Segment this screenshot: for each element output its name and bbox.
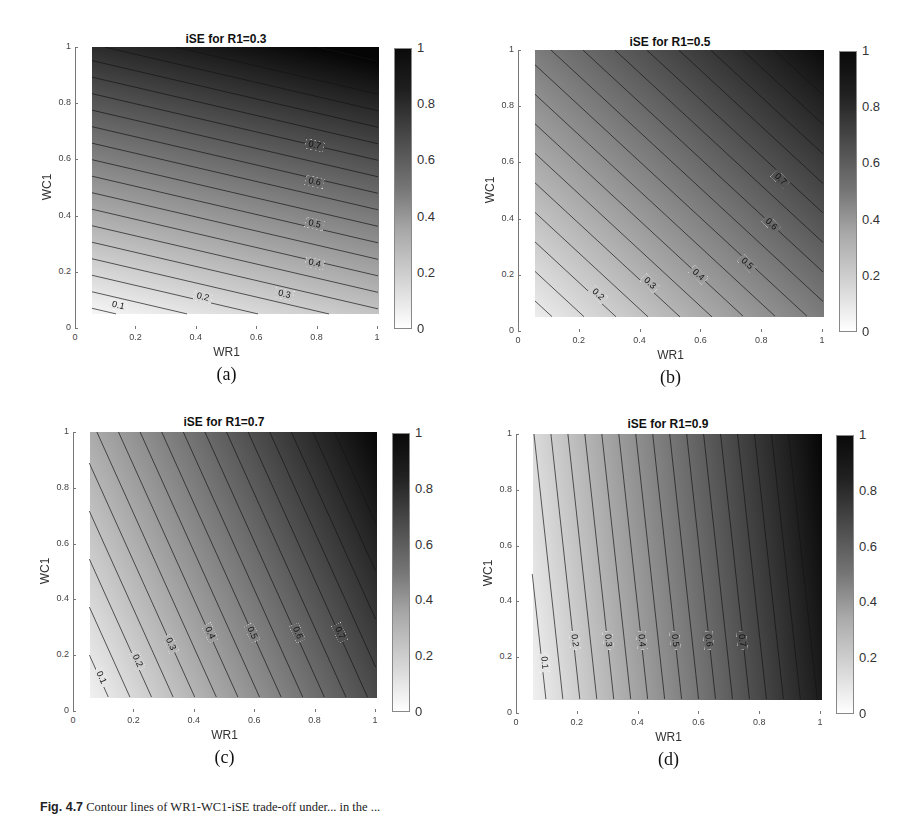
subfigure-label: (a) [197,364,257,385]
x-tick-mark [377,326,378,329]
x-tick-label: 0.4 [630,717,646,727]
y-tick-mark [518,50,521,51]
colorbar-tick-label: 0.2 [417,265,435,280]
y-tick-mark [75,103,78,104]
x-tick-mark [196,326,197,329]
plot-area [75,47,378,329]
colorbar-tick-label: 0 [859,706,866,721]
colorbar-tick-label: 0.6 [859,539,877,554]
panel-title: iSE for R1=0.9 [618,417,718,431]
y-axis-label: WC1 [483,160,497,220]
y-tick-label: 0.6 [496,156,514,166]
y-tick-mark [518,162,521,163]
colorbar-tick-label: 0.8 [415,481,433,496]
y-tick-mark [73,711,76,712]
colorbar-tick-label: 0.2 [862,268,880,283]
x-tick-mark [579,329,580,332]
x-tick-mark [640,329,641,332]
y-tick-label: 0.6 [53,153,71,163]
y-tick-mark [516,490,519,491]
y-tick-mark [73,599,76,600]
colorbar [836,435,854,714]
y-tick-label: 0.4 [496,213,514,223]
y-tick-label: 0.6 [494,540,512,550]
x-tick-label: 0.8 [307,715,323,725]
y-tick-mark [518,106,521,107]
y-tick-label: 1 [496,44,514,54]
x-tick-label: 0 [65,715,81,725]
y-tick-label: 0.4 [494,595,512,605]
colorbar-tick-label: 0.2 [415,648,433,663]
y-tick-label: 0.8 [494,484,512,494]
y-tick-mark [518,275,521,276]
contour-field [76,47,379,329]
y-tick-label: 0.4 [53,210,71,220]
colorbar-tick-label: 0.4 [415,592,433,607]
x-tick-label: 0.8 [309,332,325,342]
x-tick-label: 0.4 [188,332,204,342]
x-tick-mark [315,709,316,712]
x-tick-label: 0 [510,335,526,345]
y-axis-label: WC1 [40,157,54,217]
colorbar-tick-label: 0.4 [862,212,880,227]
plot-area [518,50,823,332]
x-tick-label: 0.4 [186,715,202,725]
y-tick-mark [516,546,519,547]
y-tick-mark [73,488,76,489]
y-tick-mark [518,331,521,332]
x-tick-label: 0 [508,717,524,727]
colorbar-tick-label: 1 [862,43,869,58]
y-axis-label: WC1 [38,541,52,601]
plot-area [516,434,821,714]
panel-title: iSE for R1=0.5 [620,35,720,49]
x-tick-mark [133,709,134,712]
y-tick-mark [75,216,78,217]
colorbar-tick-label: 0.4 [417,209,435,224]
x-tick-label: 0.6 [248,332,264,342]
x-tick-label: 0.2 [127,332,143,342]
colorbar-tick-label: 0.6 [862,155,880,170]
y-tick-mark [73,544,76,545]
x-axis-label: WR1 [641,348,701,362]
colorbar-tick-label: 1 [417,40,424,55]
y-tick-mark [75,159,78,160]
subfigure-label: (c) [195,747,255,768]
x-tick-label: 0.8 [751,717,767,727]
colorbar [392,433,410,712]
x-axis-label: WR1 [195,728,255,742]
y-tick-mark [73,432,76,433]
x-tick-mark [375,709,376,712]
y-tick-label: 0.2 [494,651,512,661]
y-tick-mark [516,657,519,658]
y-tick-label: 1 [494,428,512,438]
colorbar-tick-label: 0 [417,321,424,336]
x-tick-label: 0.6 [692,335,708,345]
plot-area [73,432,376,712]
colorbar [839,51,857,332]
x-tick-label: 1 [367,715,383,725]
y-tick-mark [75,328,78,329]
y-tick-mark [516,601,519,602]
x-tick-label: 0.6 [690,717,706,727]
x-tick-label: 1 [814,335,830,345]
y-tick-label: 0.8 [51,482,69,492]
y-tick-label: 0.4 [51,593,69,603]
colorbar-tick-label: 0 [415,704,422,719]
colorbar-tick-label: 0.6 [417,152,435,167]
x-tick-label: 0.6 [246,715,262,725]
caption-label: Fig. 4.7 [40,800,83,814]
y-tick-label: 0 [494,707,512,717]
x-tick-mark [638,711,639,714]
x-tick-mark [700,329,701,332]
colorbar-tick-label: 0.8 [862,99,880,114]
x-tick-mark [822,329,823,332]
colorbar-tick-label: 1 [415,425,422,440]
y-tick-label: 0.6 [51,538,69,548]
y-tick-label: 1 [53,41,71,51]
y-tick-mark [75,272,78,273]
x-tick-mark [759,711,760,714]
y-tick-label: 0.2 [51,649,69,659]
colorbar [394,48,412,329]
colorbar-tick-label: 0.4 [859,594,877,609]
y-tick-label: 0 [51,705,69,715]
